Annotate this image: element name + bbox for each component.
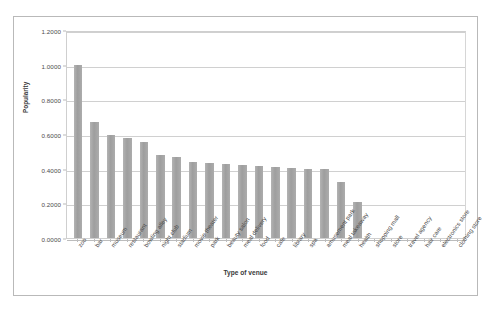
x-axis-tick-mark [160,239,161,242]
x-axis-tick-mark [127,239,128,242]
y-axis-tick-label: 1.2000 [41,28,61,35]
bar-slot [366,32,382,238]
bar-series [67,32,465,238]
bar[interactable] [271,167,280,238]
bar[interactable] [222,164,231,238]
bar-slot [185,32,201,238]
x-axis-tick-mark [259,239,260,242]
bar-slot [431,32,447,238]
x-axis-tick-mark [358,239,359,242]
y-axis-tick-label: 1.0000 [41,62,61,69]
bar[interactable] [304,169,313,238]
bar[interactable] [74,65,83,238]
bar-slot [119,32,135,238]
x-axis-tick-mark [391,239,392,242]
bar-slot [283,32,299,238]
y-axis-tick-label: 0.4000 [41,166,61,173]
x-axis-tick-mark [193,239,194,242]
bar-slot [316,32,332,238]
bar-slot [152,32,168,238]
bar[interactable] [320,169,329,238]
bar[interactable] [189,162,198,238]
y-axis-tick-label: 0.8000 [41,97,61,104]
bar[interactable] [107,135,116,238]
bar-slot [103,32,119,238]
bar-slot [349,32,365,238]
y-axis-tick-labels: 0.00000.20000.40000.60000.80001.00001.20… [14,17,66,241]
x-axis-tick-mark [226,239,227,242]
bar-slot [136,32,152,238]
x-axis-tick-mark [457,239,458,242]
bar-slot [382,32,398,238]
bar-slot [218,32,234,238]
bar-slot [300,32,316,238]
chart-frame: Popularity 0.00000.20000.40000.60000.800… [13,16,478,296]
bar-slot [70,32,86,238]
bar-slot [251,32,267,238]
bar-slot [201,32,217,238]
x-axis-tick-mark [424,239,425,242]
y-axis-tick-label: 0.0000 [41,236,61,243]
bar-slot [234,32,250,238]
x-axis-tick-mark [94,239,95,242]
bar-slot [333,32,349,238]
bar[interactable] [90,122,99,238]
x-axis-tick-mark [325,239,326,242]
y-axis-tick-label: 0.6000 [41,132,61,139]
bar-slot [86,32,102,238]
bar-slot [169,32,185,238]
bar[interactable] [123,138,132,238]
plot-area [66,31,466,239]
bar-slot [267,32,283,238]
y-axis-tick-label: 0.2000 [41,201,61,208]
bar-slot [415,32,431,238]
bar-slot [448,32,464,238]
bar[interactable] [287,168,296,238]
bar-slot [398,32,414,238]
x-axis-title: Type of venue [14,269,477,276]
x-axis-tick-mark [292,239,293,242]
